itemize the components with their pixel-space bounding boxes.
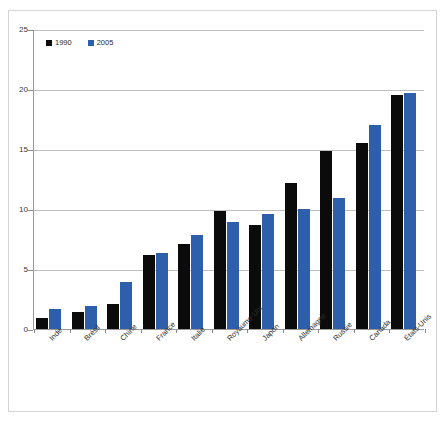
bar--tats-unis-2005[interactable]: [404, 93, 416, 329]
x-tick: [425, 329, 426, 333]
bar-group: [141, 30, 177, 329]
bar-br-sil-1990[interactable]: [72, 312, 84, 329]
bar-inde-2005[interactable]: [49, 309, 61, 329]
bar-france-1990[interactable]: [143, 255, 155, 329]
bar-royaume-uni-1990[interactable]: [214, 211, 226, 329]
bar-group: [318, 30, 354, 329]
legend-label-2005: 2005: [97, 39, 114, 47]
bar-canada-2005[interactable]: [369, 125, 381, 329]
bar-canada-1990[interactable]: [356, 143, 368, 329]
bars-layer: [34, 30, 424, 329]
bar-italie-1990[interactable]: [178, 244, 190, 329]
y-axis-label: 10: [4, 206, 28, 214]
bar-chine-2005[interactable]: [120, 282, 132, 329]
legend-swatch-1990: [46, 40, 52, 46]
bar--tats-unis-1990[interactable]: [391, 95, 403, 329]
bar-group: [105, 30, 141, 329]
bar-group: [283, 30, 319, 329]
legend-item-2005: 2005: [88, 39, 114, 47]
bar-group: [389, 30, 425, 329]
bar-group: [212, 30, 248, 329]
plot-area: [33, 30, 424, 330]
bar-group: [34, 30, 70, 329]
bar-france-2005[interactable]: [156, 253, 168, 329]
y-axis-label: 15: [4, 146, 28, 154]
legend-item-1990: 1990: [46, 39, 72, 47]
y-tick-15: [27, 150, 33, 151]
y-axis-label: 0: [4, 326, 28, 334]
y-tick-25: [27, 30, 33, 31]
y-tick-20: [27, 90, 33, 91]
bar-inde-1990[interactable]: [36, 318, 48, 329]
bar-russie-2005[interactable]: [333, 198, 345, 329]
legend-swatch-2005: [88, 40, 94, 46]
bar-russie-1990[interactable]: [320, 151, 332, 329]
y-axis-labels: 25 20 15 10 5 0: [0, 30, 28, 330]
chart-legend: 1990 2005: [46, 39, 113, 47]
bar-chine-1990[interactable]: [107, 304, 119, 329]
y-tick-10: [27, 210, 33, 211]
y-tick-5: [27, 270, 33, 271]
bar-japon-2005[interactable]: [262, 214, 274, 329]
bar-italie-2005[interactable]: [191, 235, 203, 329]
bar-group: [70, 30, 106, 329]
bar-group: [176, 30, 212, 329]
bar-allemagne-1990[interactable]: [285, 183, 297, 329]
y-axis-label: 5: [4, 266, 28, 274]
legend-label-1990: 1990: [55, 39, 72, 47]
bar-group: [354, 30, 390, 329]
bar-group: [247, 30, 283, 329]
x-axis-labels: IndeBrésilChineFranceItalieRoyaume-UniJa…: [33, 331, 424, 401]
bar-royaume-uni-2005[interactable]: [227, 222, 239, 329]
y-axis-label: 25: [4, 26, 28, 34]
bar-allemagne-2005[interactable]: [298, 209, 310, 329]
y-axis-label: 20: [4, 86, 28, 94]
